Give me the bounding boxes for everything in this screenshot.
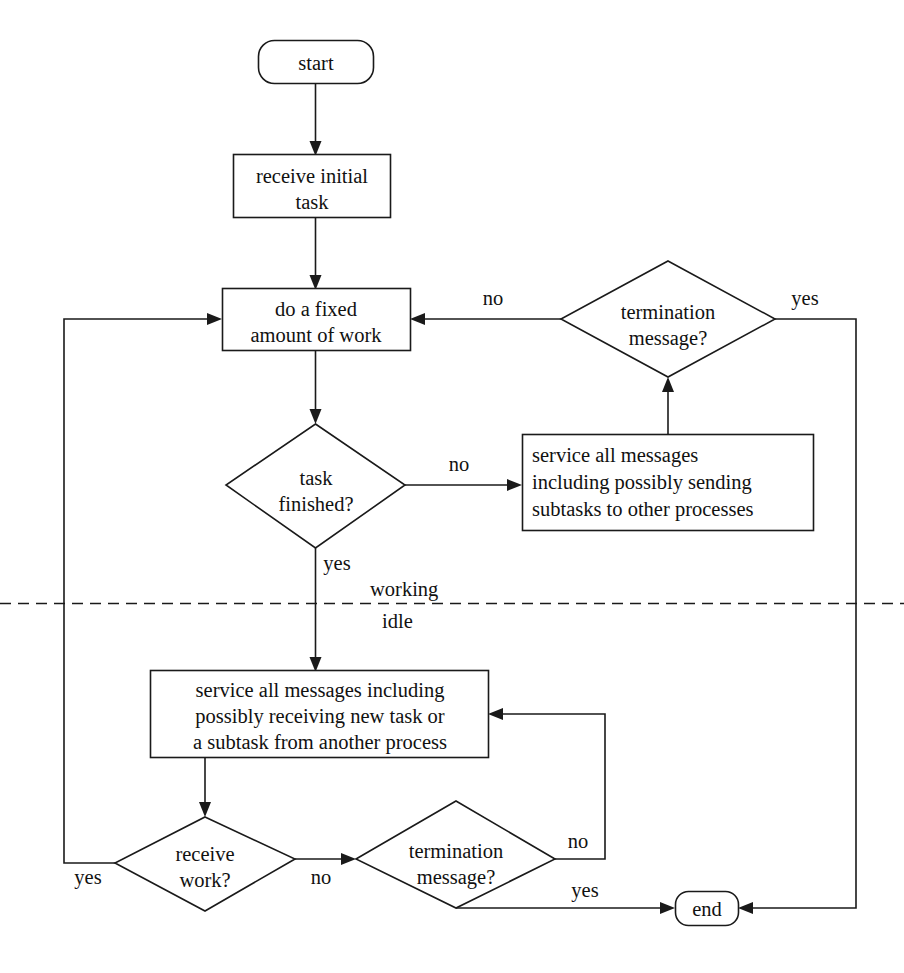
termination-message-top-label-line1: termination bbox=[621, 301, 716, 323]
receive-initial-task-label-line1: receive initial bbox=[256, 165, 368, 187]
edge-do-fixed-work-to-task-finished bbox=[310, 350, 322, 424]
node-service-receiving[interactable]: service all messages including possibly … bbox=[151, 671, 489, 758]
arrowhead-icon bbox=[341, 853, 356, 865]
termination-message-bottom-label-line1: termination bbox=[409, 840, 504, 862]
termination-message-top-label-line2: message? bbox=[629, 327, 708, 350]
node-end[interactable]: end bbox=[676, 892, 739, 926]
edge-receive-work-no-to-termination-bottom bbox=[295, 853, 356, 865]
arrowhead-icon bbox=[507, 479, 522, 491]
node-start[interactable]: start bbox=[259, 41, 374, 84]
service-sending-label-line2: including possibly sending bbox=[532, 471, 752, 494]
arrowhead-icon bbox=[660, 902, 675, 914]
flowchart-canvas: service all messages (sending) --> do a … bbox=[0, 0, 904, 973]
edge-label-task-finished-yes: yes bbox=[323, 552, 350, 575]
node-receive-initial-task[interactable]: receive initial task bbox=[234, 155, 391, 218]
arrowhead-icon bbox=[310, 409, 322, 424]
arrowhead-icon bbox=[488, 708, 503, 720]
node-receive-work[interactable]: receive work? bbox=[115, 817, 295, 911]
edge-label-receive-work-no: no bbox=[311, 866, 332, 888]
edge-label-task-finished-no: no bbox=[449, 453, 470, 475]
edge-task-finished-yes-to-service-receiving bbox=[310, 548, 322, 672]
edge-task-finished-no-to-service-sending bbox=[405, 479, 522, 491]
service-receiving-label-line1: service all messages including bbox=[196, 679, 445, 702]
node-task-finished[interactable]: task finished? bbox=[226, 424, 405, 548]
task-finished-label-line1: task bbox=[299, 467, 333, 489]
edge-service-receiving-to-receive-work bbox=[199, 757, 211, 817]
node-service-sending[interactable]: service all messages including possibly … bbox=[523, 435, 814, 531]
arrowhead-icon bbox=[662, 377, 674, 392]
edge-receive-initial-task-to-do-fixed-work bbox=[310, 217, 322, 290]
termination-message-bottom-label-line2: message? bbox=[417, 866, 496, 889]
edge-label-termination-top-yes: yes bbox=[791, 287, 818, 310]
node-do-fixed-work[interactable]: do a fixed amount of work bbox=[223, 289, 411, 351]
working-idle-divider: working idle bbox=[0, 578, 904, 632]
phase-label-working: working bbox=[370, 578, 438, 601]
service-sending-label-line3: subtasks to other processes bbox=[532, 498, 753, 521]
service-sending-label-line1: service all messages bbox=[532, 444, 698, 467]
edge-termination-top-yes-to-end bbox=[738, 319, 856, 914]
edge-termination-bottom-yes-to-end bbox=[456, 902, 675, 914]
phase-label-idle: idle bbox=[382, 610, 413, 632]
edge-label-termination-bottom-no: no bbox=[568, 830, 589, 852]
edge-termination-top-no-to-do-fixed-work bbox=[410, 313, 561, 325]
do-fixed-work-label-line1: do a fixed bbox=[275, 298, 357, 320]
service-receiving-label-line2: possibly receiving new task or bbox=[195, 705, 445, 728]
receive-work-label-line1: receive bbox=[175, 843, 234, 865]
arrowhead-icon bbox=[410, 313, 425, 325]
edge-label-termination-bottom-yes: yes bbox=[571, 879, 598, 902]
arrowhead-icon bbox=[199, 802, 211, 817]
do-fixed-work-label-line2: amount of work bbox=[251, 324, 383, 346]
task-finished-label-line2: finished? bbox=[278, 493, 353, 515]
edge-label-receive-work-yes: yes bbox=[74, 866, 101, 889]
flowchart-diagram: service all messages (sending) --> do a … bbox=[0, 0, 904, 973]
edge-label-termination-top-no: no bbox=[483, 287, 504, 309]
edge-receive-work-yes-to-do-fixed-work bbox=[64, 313, 222, 863]
end-label: end bbox=[692, 898, 722, 920]
start-label: start bbox=[298, 52, 334, 74]
node-termination-message-top[interactable]: termination message? bbox=[561, 261, 775, 377]
node-termination-message-bottom[interactable]: termination message? bbox=[356, 801, 555, 908]
receive-initial-task-label-line2: task bbox=[295, 191, 329, 213]
edge-start-to-receive-initial-task bbox=[310, 83, 322, 156]
service-receiving-label-line3: a subtask from another process bbox=[193, 731, 447, 754]
edge-service-sending-to-termination-top bbox=[662, 377, 674, 434]
arrowhead-icon bbox=[738, 902, 753, 914]
arrowhead-icon bbox=[207, 313, 222, 325]
receive-work-label-line2: work? bbox=[179, 869, 230, 891]
